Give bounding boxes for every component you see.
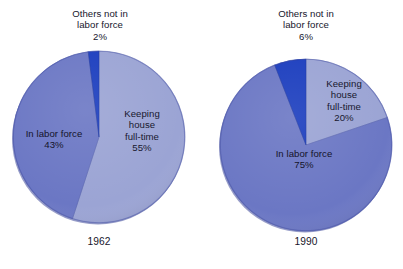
- pie-1962-shading: [13, 51, 185, 223]
- pie-chart-canvas: [0, 0, 403, 269]
- pie-chart-1962: [12, 51, 185, 225]
- pie-1990-shading: [220, 59, 392, 231]
- pie-chart-figure: Others not in labor force 2% Keeping hou…: [0, 0, 403, 269]
- pie-chart-1990: [219, 59, 392, 233]
